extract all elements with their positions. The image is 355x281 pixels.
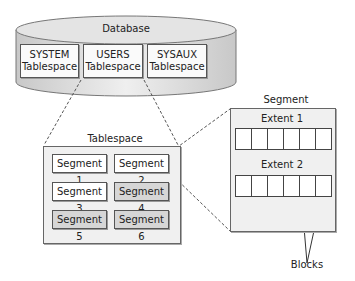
blocks-label: Blocks xyxy=(282,259,332,271)
block xyxy=(284,176,300,196)
database-label: Database xyxy=(100,23,152,35)
tablespace-system-type: Tablespace xyxy=(22,61,77,73)
segment-4: Segment 4 xyxy=(114,182,169,201)
block xyxy=(268,176,284,196)
segment-6: Segment 6 xyxy=(114,210,169,229)
segment-1: Segment 1 xyxy=(52,154,107,173)
block xyxy=(316,129,331,149)
segment-2: Segment 2 xyxy=(114,154,169,173)
tablespace-users-name: USERS xyxy=(96,49,129,61)
block xyxy=(284,129,300,149)
block xyxy=(252,129,268,149)
extent-2-blocks xyxy=(235,175,332,197)
segment-label: Segment xyxy=(256,94,316,106)
tablespace-users-type: Tablespace xyxy=(85,61,140,73)
tablespace-system: SYSTEM Tablespace xyxy=(20,44,79,78)
block xyxy=(236,129,252,149)
tablespace-system-name: SYSTEM xyxy=(30,49,70,61)
extent-1-blocks xyxy=(235,128,332,150)
tablespace-sysaux-type: Tablespace xyxy=(149,61,204,73)
block xyxy=(268,129,284,149)
tablespace-users: USERS Tablespace xyxy=(83,44,143,78)
segment-5: Segment 5 xyxy=(52,210,107,229)
tablespace-sysaux: SYSAUX Tablespace xyxy=(147,44,207,78)
tablespace-label: Tablespace xyxy=(80,133,150,145)
block xyxy=(300,176,316,196)
segment-3: Segment 3 xyxy=(52,182,107,201)
extent-1-label: Extent 1 xyxy=(250,113,314,125)
block xyxy=(300,129,316,149)
tablespace-sysaux-name: SYSAUX xyxy=(157,49,197,61)
block xyxy=(252,176,268,196)
extent-2-label: Extent 2 xyxy=(250,159,314,171)
block xyxy=(316,176,331,196)
block xyxy=(236,176,252,196)
